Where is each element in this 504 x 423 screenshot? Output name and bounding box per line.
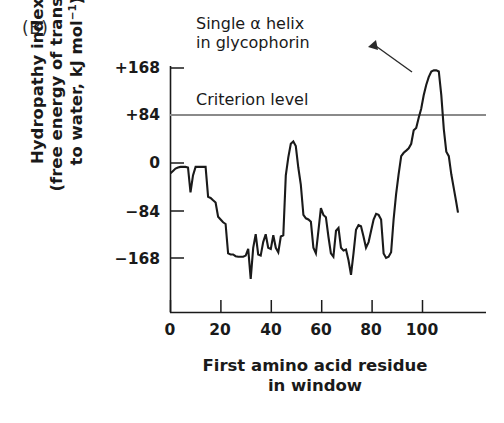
hydropathy-curve: [171, 70, 459, 278]
annotation-leader-line: [373, 44, 412, 72]
hydropathy-plot-figure: (B) Hydropathy index (free energy of tra…: [0, 0, 504, 423]
plot-canvas: [0, 0, 504, 423]
annotation-arrow-head-icon: [368, 40, 378, 50]
